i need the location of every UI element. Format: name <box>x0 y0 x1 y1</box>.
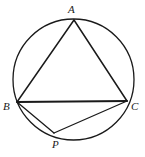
vertex-label-b: B <box>3 101 10 112</box>
segment-ac <box>74 20 127 101</box>
segment-ab <box>17 20 74 102</box>
circumcircle <box>13 19 134 140</box>
vertex-label-c: C <box>131 101 138 112</box>
geometry-figure: A B C P <box>0 0 145 157</box>
segment-pc <box>54 101 127 133</box>
vertex-label-p: P <box>52 139 59 150</box>
vertex-label-a: A <box>68 4 75 15</box>
segment-bp <box>17 102 54 133</box>
geometry-canvas <box>0 0 145 157</box>
segment-bc <box>17 101 127 102</box>
